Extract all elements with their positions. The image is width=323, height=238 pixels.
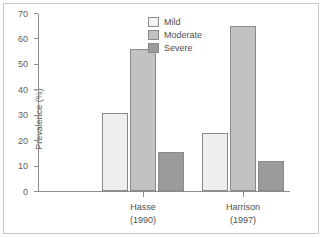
bar-moderate-hasse <box>130 49 156 191</box>
y-tick-30: 30 <box>34 115 38 116</box>
x-tick-hasse <box>143 192 144 197</box>
y-tick-label-50: 50 <box>18 60 28 69</box>
y-tick-10: 10 <box>34 166 38 167</box>
legend-item-severe: Severe <box>148 42 202 54</box>
x-tick-harrison <box>243 192 244 197</box>
y-tick-40: 40 <box>34 89 38 90</box>
category-year: (1997) <box>226 214 260 227</box>
chart-legend: Mild Moderate Severe <box>148 16 202 55</box>
legend-label-moderate: Moderate <box>164 31 202 40</box>
chart-figure: Prevalence (%) 010203040506070 Hasse(199… <box>0 0 323 238</box>
legend-label-severe: Severe <box>164 44 193 53</box>
y-tick-0: 0 <box>34 191 38 192</box>
category-year: (1990) <box>130 214 156 227</box>
legend-item-mild: Mild <box>148 16 202 28</box>
y-tick-label-0: 0 <box>23 187 28 196</box>
y-tick-label-30: 30 <box>18 111 28 120</box>
legend-swatch-severe <box>148 43 159 53</box>
bar-moderate-harrison <box>230 26 256 191</box>
bar-severe-harrison <box>258 161 284 192</box>
y-tick-70: 70 <box>34 13 38 14</box>
y-tick-20: 20 <box>34 140 38 141</box>
y-tick-label-70: 70 <box>18 9 28 18</box>
category-name: Harrison <box>226 201 260 214</box>
bar-severe-hasse <box>158 152 184 191</box>
y-tick-label-20: 20 <box>18 136 28 145</box>
legend-item-moderate: Moderate <box>148 29 202 41</box>
y-tick-label-10: 10 <box>18 162 28 171</box>
legend-swatch-mild <box>148 17 159 27</box>
bar-mild-hasse <box>102 113 128 191</box>
y-tick-label-40: 40 <box>18 85 28 94</box>
category-label-harrison: Harrison(1997) <box>226 201 260 227</box>
legend-label-mild: Mild <box>164 18 181 27</box>
bar-mild-harrison <box>202 133 228 191</box>
y-axis-line <box>38 14 39 192</box>
legend-swatch-moderate <box>148 30 159 40</box>
y-tick-60: 60 <box>34 38 38 39</box>
category-label-hasse: Hasse(1990) <box>130 201 156 227</box>
y-tick-50: 50 <box>34 64 38 65</box>
y-tick-label-60: 60 <box>18 34 28 43</box>
category-name: Hasse <box>130 201 156 214</box>
x-axis-line <box>38 191 290 192</box>
